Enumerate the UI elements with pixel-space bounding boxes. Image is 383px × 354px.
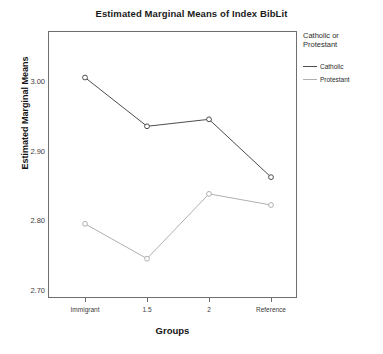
legend-title-line-1: Catholic or	[303, 31, 365, 40]
x-tick-label-immigrant: Immigrant	[71, 306, 100, 313]
plot-area-frame	[48, 31, 297, 298]
legend-items: Catholic Protestant	[303, 61, 383, 85]
x-tick-label-reference: Reference	[256, 306, 286, 313]
x-tick-mark-reference	[271, 298, 272, 302]
legend-title-line-2: Protestant	[303, 40, 365, 49]
plot-canvas	[49, 32, 296, 297]
data-point-catholic-2[interactable]	[207, 117, 212, 122]
legend-item-protestant[interactable]: Protestant	[303, 74, 383, 85]
data-point-protestant-1-5[interactable]	[145, 256, 150, 261]
y-axis-tick-labels: 3.00 2.90 2.80 2.70	[16, 31, 45, 298]
series-line-protestant	[85, 194, 271, 259]
series-line-catholic	[85, 78, 271, 178]
legend-title: Catholic or Protestant	[303, 31, 365, 50]
legend-item-catholic[interactable]: Catholic	[303, 61, 383, 72]
y-tick-label-270: 2.70	[30, 286, 45, 295]
legend: Catholic or Protestant Catholic Protesta…	[303, 31, 383, 87]
x-tick-label-1-5: 1.5	[142, 306, 151, 313]
data-point-protestant-Reference[interactable]	[269, 203, 274, 208]
x-axis-title: Groups	[48, 325, 297, 336]
data-point-protestant-2[interactable]	[207, 191, 212, 196]
legend-line-swatch-catholic	[303, 66, 317, 67]
data-point-catholic-Reference[interactable]	[269, 175, 274, 180]
x-tick-label-2: 2	[207, 306, 211, 313]
data-point-catholic-1-5[interactable]	[145, 124, 150, 129]
y-tick-label-290: 2.90	[30, 147, 45, 156]
x-tick-mark-immigrant	[85, 298, 86, 302]
chart-title: Estimated Marginal Means of Index BibLit	[0, 8, 383, 19]
x-tick-mark-1-5	[147, 298, 148, 302]
y-tick-label-300: 3.00	[30, 77, 45, 86]
legend-label-protestant: Protestant	[320, 76, 350, 83]
legend-line-swatch-protestant	[303, 79, 317, 80]
data-point-protestant-Immigrant[interactable]	[83, 221, 88, 226]
x-tick-mark-2	[209, 298, 210, 302]
y-tick-label-280: 2.80	[30, 216, 45, 225]
clipped-header-text	[96, 0, 296, 3]
legend-label-catholic: Catholic	[320, 63, 343, 70]
chart-screenshot: Estimated Marginal Means of Index BibLit…	[0, 0, 383, 354]
data-point-catholic-Immigrant[interactable]	[83, 75, 88, 80]
